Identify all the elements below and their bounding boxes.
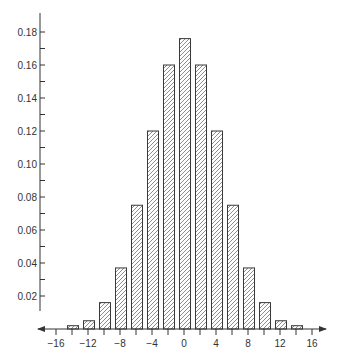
histogram-bars: [68, 39, 303, 329]
y-tick-label: 0.08: [18, 192, 38, 203]
bar-2: [196, 65, 207, 329]
x-axis-ticks: [56, 329, 312, 335]
x-tick-label: −12: [80, 338, 97, 349]
y-tick-label: 0.12: [18, 126, 38, 137]
bar-rect: [196, 65, 207, 329]
bar-8: [244, 268, 255, 329]
bar-rect: [212, 131, 223, 329]
bar-rect: [148, 131, 159, 329]
bar--8: [116, 268, 127, 329]
y-axis-ticks: [40, 32, 45, 296]
y-tick-label: 0.10: [18, 159, 38, 170]
y-tick-label: 0.14: [18, 93, 38, 104]
bar--12: [84, 321, 95, 329]
bar--4: [148, 131, 159, 329]
bar-10: [260, 303, 271, 329]
bar-rect: [164, 65, 175, 329]
x-tick-label: 16: [306, 338, 318, 349]
figure-caption-clipped: [14, 356, 184, 362]
y-tick-label: 0.06: [18, 225, 38, 236]
x-tick-label: −4: [146, 338, 158, 349]
bar-12: [276, 321, 287, 329]
bar-rect: [276, 321, 287, 329]
bar-rect: [260, 303, 271, 329]
bar-rect: [244, 268, 255, 329]
bar--2: [164, 65, 175, 329]
bar-0: [180, 39, 191, 329]
y-tick-label: 0.04: [18, 258, 38, 269]
bar-rect: [132, 205, 143, 329]
bar-rect: [100, 303, 111, 329]
y-tick-label: 0.16: [18, 60, 38, 71]
x-tick-label: −8: [114, 338, 126, 349]
x-tick-label: 8: [245, 338, 251, 349]
x-tick-label: 12: [274, 338, 286, 349]
bar-4: [212, 131, 223, 329]
bar-rect: [84, 321, 95, 329]
bar-rect: [180, 39, 191, 329]
x-tick-label: 4: [213, 338, 219, 349]
bar-rect: [228, 205, 239, 329]
x-tick-label: 0: [181, 338, 187, 349]
y-tick-label: 0.02: [18, 291, 38, 302]
x-axis-tick-labels: −16−12−8−40481216: [48, 338, 318, 349]
bar-6: [228, 205, 239, 329]
x-tick-label: −16: [48, 338, 65, 349]
bar--6: [132, 205, 143, 329]
symmetric-distribution-bar-chart: 0.020.040.060.080.100.120.140.160.18 −16…: [0, 0, 346, 362]
bar--10: [100, 303, 111, 329]
bar-rect: [116, 268, 127, 329]
y-tick-label: 0.18: [18, 27, 38, 38]
y-axis-tick-labels: 0.020.040.060.080.100.120.140.160.18: [18, 27, 38, 302]
